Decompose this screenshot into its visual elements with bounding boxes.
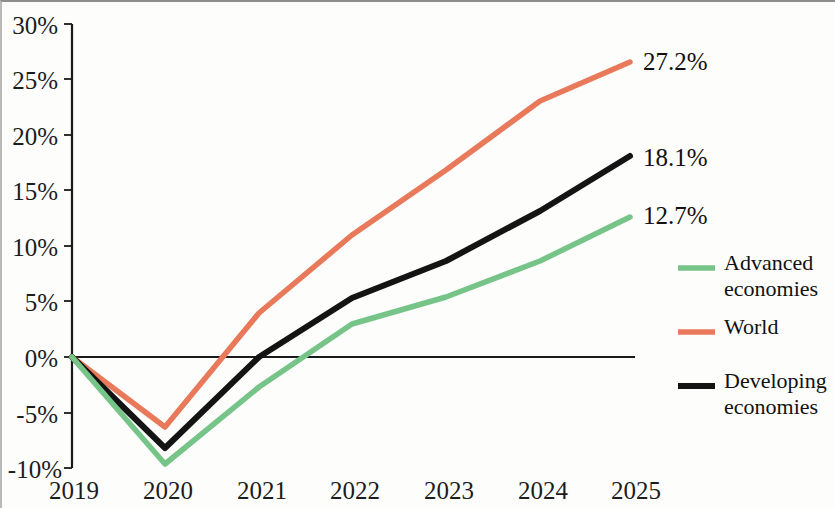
y-tick-label-25: 25% xyxy=(12,67,58,94)
line-chart: 30% 25% 20% 15% 10% 5% 0% -5% -10% 27.2%… xyxy=(2,2,835,508)
y-tick-label-30: 30% xyxy=(12,12,58,39)
end-label-advanced-economies: 12.7% xyxy=(643,202,708,229)
series-line-world xyxy=(72,62,630,427)
legend-label-advanced-economies-line2: economies xyxy=(724,276,818,301)
legend-label-advanced-economies-line1: Advanced xyxy=(724,250,813,275)
y-tick-marks xyxy=(64,24,72,468)
y-tick-label-0: 0% xyxy=(25,345,58,372)
x-tick-label-2025: 2025 xyxy=(611,477,661,504)
x-tick-label-2021: 2021 xyxy=(237,477,287,504)
y-tick-label-neg5: -5% xyxy=(16,401,58,428)
legend-item-world[interactable]: World xyxy=(678,314,778,339)
end-label-world: 27.2% xyxy=(643,48,708,75)
legend-item-advanced-economies[interactable]: Advanced economies xyxy=(678,250,818,301)
legend-label-developing-economies-line1: Developing xyxy=(724,368,827,393)
series-line-advanced-economies xyxy=(72,217,630,464)
x-tick-label-2020: 2020 xyxy=(143,477,193,504)
y-tick-label-15: 15% xyxy=(12,178,58,205)
end-label-developing-economies: 18.1% xyxy=(643,144,708,171)
y-tick-label-20: 20% xyxy=(12,123,58,150)
y-tick-label-10: 10% xyxy=(12,234,58,261)
chart-figure: 30% 25% 20% 15% 10% 5% 0% -5% -10% 27.2%… xyxy=(0,0,835,508)
legend-item-developing-economies[interactable]: Developing economies xyxy=(678,368,827,419)
legend-label-developing-economies-line2: economies xyxy=(724,394,818,419)
x-tick-label-2023: 2023 xyxy=(424,477,474,504)
x-tick-label-2024: 2024 xyxy=(518,477,569,504)
legend-label-world-line1: World xyxy=(724,314,778,339)
series-line-developing-economies xyxy=(72,156,630,448)
y-tick-label-5: 5% xyxy=(25,289,58,316)
chart-legend: Advanced economies World Developing econ… xyxy=(678,250,827,419)
x-tick-label-2022: 2022 xyxy=(330,477,380,504)
x-tick-label-2019: 2019 xyxy=(49,477,99,504)
